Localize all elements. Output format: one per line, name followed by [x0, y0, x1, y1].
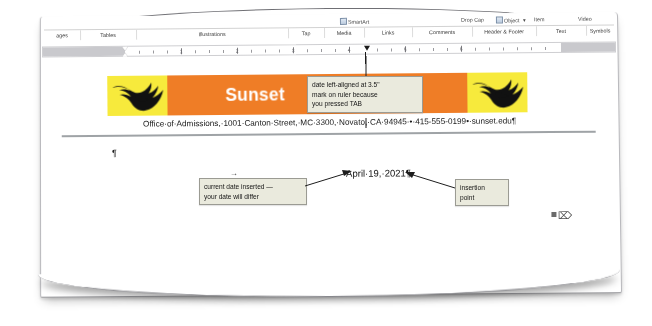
banner-right-wing [467, 72, 527, 113]
ruler-number-3: 3 [292, 47, 295, 53]
tab-formatting-mark: → [230, 169, 238, 178]
ruler-number-5: 5 [404, 46, 407, 52]
ruler-right-margin [561, 43, 615, 52]
banner-title-text: Sunset [225, 84, 285, 106]
callout-line: insertion [460, 183, 504, 193]
callout-line: date left-aligned at 3.5" [312, 80, 418, 90]
smartart-label: SmartArt [348, 19, 369, 25]
eagle-logo-icon [470, 75, 524, 109]
callout-line: point [460, 193, 504, 203]
ruler-number-4: 4 [348, 46, 351, 52]
smartart-icon [340, 18, 347, 25]
callout-line: current date inserted — [204, 182, 302, 192]
object-dropdown-arrow-icon[interactable]: ▾ [521, 17, 526, 23]
banner-left-wing [107, 75, 167, 116]
left-indent-marker[interactable] [122, 52, 128, 56]
callout-line: your date will differ [204, 192, 302, 202]
ribbon-group-header-footer[interactable]: Header & Footer [472, 26, 537, 38]
ribbon-group-comments[interactable]: Comments [412, 27, 473, 39]
ribbon-group-text[interactable]: Text [536, 26, 587, 37]
callout-line: you pressed TAB [312, 99, 418, 109]
insertion-point-callout: insertion point [455, 179, 509, 206]
ruler-left-margin [43, 47, 125, 57]
video-command[interactable]: Video [578, 16, 592, 22]
i-beam-cursor: ⌦ [558, 210, 572, 221]
ruler-number-2: 2 [236, 47, 239, 53]
ruler-number-1: 1 [180, 48, 183, 54]
tab-stop-marker[interactable] [364, 46, 370, 51]
item-command[interactable]: Item [534, 16, 545, 22]
current-date-callout: current date inserted — your date will d… [199, 178, 307, 205]
ribbon-group-links[interactable]: Links [364, 27, 413, 38]
empty-paragraph-mark: ¶ [112, 148, 117, 158]
shapes-command[interactable] [260, 19, 262, 25]
ribbon-group-tap[interactable]: Tap [288, 28, 325, 39]
eagle-logo-icon [110, 78, 164, 112]
selection-square [551, 212, 556, 217]
ribbon-group-symbols[interactable]: Symbols [586, 26, 614, 37]
tab-alignment-callout: date left-aligned at 3.5" mark on ruler … [307, 76, 423, 113]
ribbon-group-media[interactable]: Media [324, 28, 365, 39]
ruler-number-6: 6 [460, 45, 463, 51]
callout-line: mark on ruler because [312, 90, 418, 100]
first-line-indent-marker[interactable] [122, 46, 128, 50]
object-label: Object [504, 17, 520, 23]
letterhead-divider [62, 131, 596, 137]
smartart-command[interactable]: SmartArt [340, 18, 369, 25]
screenshot-root: SmartArt Item Video Drop Cap Object ▾ ag… [0, 0, 652, 326]
drop-cap-command[interactable]: Drop Cap [461, 17, 484, 23]
address-line: Office·of·Admissions,·1001·Canton·Street… [84, 116, 576, 129]
object-icon [496, 16, 503, 23]
object-command[interactable]: Object ▾ [496, 16, 526, 23]
ribbon-group-tables[interactable]: Tables [80, 30, 137, 41]
ribbon-group-pages[interactable]: ages [44, 30, 81, 40]
inserted-date-text: April·19,·2021¶ [346, 167, 411, 179]
